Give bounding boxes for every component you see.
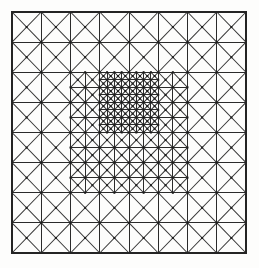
mesh-node: [55, 86, 57, 88]
mesh-node: [146, 98, 148, 100]
mesh-node: [128, 41, 130, 43]
mesh-node: [77, 169, 79, 171]
mesh-node: [150, 101, 152, 103]
mesh-node: [102, 90, 104, 92]
mesh-node: [157, 162, 159, 164]
mesh-node: [106, 132, 108, 134]
mesh-node: [157, 147, 159, 149]
mesh-node: [139, 75, 141, 77]
mesh-node: [165, 79, 167, 81]
mesh-node: [139, 90, 141, 92]
mesh-node: [128, 79, 130, 81]
mesh-node: [117, 105, 119, 107]
mesh-node: [154, 120, 156, 122]
mesh-node: [157, 124, 159, 126]
mesh-node: [165, 169, 167, 171]
mesh-node: [99, 71, 101, 73]
mesh-node: [143, 147, 145, 149]
mesh-node: [99, 86, 101, 88]
mesh-node: [172, 237, 174, 239]
mesh-node: [143, 94, 145, 96]
mesh-node: [201, 116, 203, 118]
mesh-node: [128, 177, 130, 179]
mesh-node: [187, 41, 189, 43]
mesh-node: [216, 192, 218, 194]
mesh-node: [99, 79, 101, 81]
mesh-node: [201, 147, 203, 149]
mesh-node: [230, 177, 232, 179]
mesh-node: [106, 79, 108, 81]
mesh-node: [124, 75, 126, 77]
mesh-node: [113, 56, 115, 58]
mesh-node: [113, 147, 115, 149]
mesh-node: [150, 184, 152, 186]
mesh-node: [146, 90, 148, 92]
mesh-node: [128, 124, 130, 126]
mesh-node: [84, 86, 86, 88]
mesh-node: [187, 162, 189, 164]
mesh-node: [132, 128, 134, 130]
mesh-node: [143, 71, 145, 73]
mesh-node: [143, 192, 145, 194]
mesh-node: [124, 120, 126, 122]
mesh-node: [150, 79, 152, 81]
mesh-node: [172, 132, 174, 134]
mesh-node: [179, 139, 181, 141]
mesh-node: [216, 222, 218, 224]
mesh-node: [132, 105, 134, 107]
mesh-node: [91, 184, 93, 186]
mesh-node: [70, 132, 72, 134]
mesh-node: [70, 222, 72, 224]
mesh-node: [150, 109, 152, 111]
mesh-node: [157, 71, 159, 73]
mesh-node: [201, 86, 203, 88]
mesh-node: [157, 94, 159, 96]
mesh-node: [150, 154, 152, 156]
mesh-node: [139, 128, 141, 130]
mesh-node: [154, 83, 156, 85]
mesh-node: [124, 113, 126, 115]
mesh-node: [172, 177, 174, 179]
mesh-node: [77, 154, 79, 156]
mesh-node: [77, 139, 79, 141]
mesh-node: [150, 86, 152, 88]
mesh-node: [230, 86, 232, 88]
mesh-node: [135, 124, 137, 126]
mesh-node: [26, 147, 28, 149]
mesh-node: [154, 90, 156, 92]
mesh-node: [150, 94, 152, 96]
mesh-node: [55, 207, 57, 209]
mesh-node: [70, 192, 72, 194]
mesh-node: [139, 120, 141, 122]
mesh-node: [26, 207, 28, 209]
mesh-node: [113, 162, 115, 164]
mesh-node: [216, 41, 218, 43]
mesh-node: [55, 116, 57, 118]
mesh-node: [216, 132, 218, 134]
mesh-node: [77, 94, 79, 96]
mesh-node: [165, 94, 167, 96]
mesh-node: [172, 86, 174, 88]
mesh-node: [113, 109, 115, 111]
mesh-node: [40, 132, 42, 134]
mesh-node: [201, 177, 203, 179]
mesh-node: [216, 71, 218, 73]
mesh-node: [128, 222, 130, 224]
mesh-node: [106, 71, 108, 73]
mesh-node: [77, 124, 79, 126]
mesh-node: [172, 26, 174, 28]
mesh-node: [128, 86, 130, 88]
mesh-node: [117, 120, 119, 122]
mesh-node: [201, 56, 203, 58]
mesh-node: [157, 116, 159, 118]
mesh-node: [121, 132, 123, 134]
mesh-node: [84, 71, 86, 73]
mesh-node: [150, 71, 152, 73]
mesh-node: [77, 184, 79, 186]
mesh-node: [172, 207, 174, 209]
mesh-node: [106, 154, 108, 156]
mesh-node: [70, 147, 72, 149]
mesh-node: [121, 71, 123, 73]
mesh-node: [146, 120, 148, 122]
mesh-node: [172, 101, 174, 103]
